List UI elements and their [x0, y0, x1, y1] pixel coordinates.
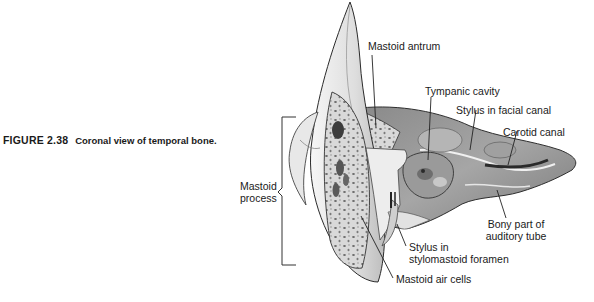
- label-mastoid-process-line1: Mastoid: [240, 180, 276, 192]
- label-stylus-stylomastoid-foramen: Stylus in stylomastoid foramen: [409, 241, 509, 265]
- label-mastoid-process: Mastoid process: [240, 180, 276, 204]
- label-carotid-canal: Carotid canal: [503, 126, 565, 138]
- label-mastoid-process-line2: process: [240, 192, 276, 204]
- label-mastoid-antrum: Mastoid antrum: [368, 40, 440, 52]
- label-tympanic-cavity: Tympanic cavity: [425, 85, 500, 97]
- label-stylus-facial-canal: Stylus in facial canal: [456, 104, 551, 116]
- label-stylus-stylomastoid-line1: Stylus in: [409, 241, 509, 253]
- label-bony-part-auditory-tube: Bony part of auditory tube: [480, 218, 552, 242]
- label-stylus-stylomastoid-line2: stylomastoid foramen: [409, 253, 509, 265]
- label-mastoid-air-cells: Mastoid air cells: [396, 273, 471, 285]
- label-bony-part-line1: Bony part of: [480, 218, 552, 230]
